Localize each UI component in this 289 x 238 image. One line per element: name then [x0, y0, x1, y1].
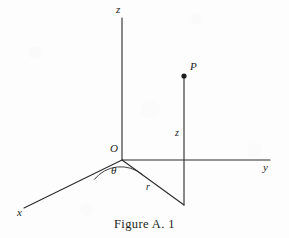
point-p-marker [181, 73, 186, 78]
r-radius-segment [122, 160, 184, 205]
theta-angle-label: θ [111, 165, 116, 176]
figure-caption: Figure A. 1 [0, 217, 289, 232]
y-axis-label: y [263, 162, 268, 173]
coordinate-diagram [0, 0, 289, 238]
r-radius-label: r [146, 182, 150, 192]
z-height-label: z [175, 128, 179, 138]
point-p-label: P [190, 61, 197, 72]
z-axis-label: z [116, 4, 120, 15]
figure-container: z y x O P z r θ Figure A. 1 [0, 0, 289, 238]
x-axis-line [24, 160, 122, 208]
origin-label: O [110, 143, 118, 154]
theta-angle-arc [94, 167, 142, 180]
